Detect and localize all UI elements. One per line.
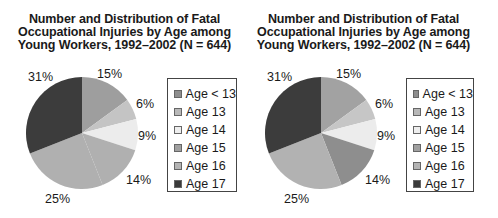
legend-swatch (174, 180, 182, 188)
chart-legend: Age < 13 Age 13 Age 14 Age 15 Age 16 Age… (167, 78, 237, 192)
slice-label-age-15: 14% (126, 174, 151, 187)
legend-swatch (413, 144, 421, 152)
legend-item: Age 14 (413, 121, 473, 139)
legend-item: Age 17 (174, 175, 236, 193)
legend-label: Age 15 (186, 141, 226, 155)
legend-swatch (413, 108, 421, 116)
legend-label: Age 16 (425, 159, 465, 173)
legend-swatch (413, 162, 421, 170)
legend-item: Age 14 (174, 121, 236, 139)
legend-swatch (174, 144, 182, 152)
slice-label-age-14: 9% (377, 130, 395, 143)
chart-panel-left: Number and Distribution of Fatal Occupat… (0, 0, 249, 218)
slice-label-age-15: 14% (365, 174, 390, 187)
slice-label-age-under-13: 15% (97, 68, 122, 81)
slice-label-age-17: 31% (267, 71, 292, 84)
slice-label-age-16: 25% (284, 193, 309, 206)
slice-label-age-13: 6% (375, 98, 393, 111)
slice-label-age-13: 6% (136, 98, 154, 111)
legend-label: Age 14 (186, 123, 226, 137)
legend-swatch (413, 90, 419, 98)
legend-swatch (174, 162, 182, 170)
legend-swatch (174, 108, 182, 116)
legend-label: Age 15 (425, 141, 465, 155)
slice-label-age-16: 25% (45, 193, 70, 206)
legend-item: Age 15 (174, 139, 236, 157)
legend-item: Age < 13 (413, 85, 473, 103)
legend-item: Age 13 (413, 103, 473, 121)
legend-item: Age 16 (413, 157, 473, 175)
chart-panel-right: Number and Distribution of Fatal Occupat… (239, 0, 488, 218)
chart-legend: Age < 13 Age 13 Age 14 Age 15 Age 16 Age… (406, 78, 474, 192)
slice-label-age-14: 9% (138, 130, 156, 143)
legend-label: Age 17 (186, 177, 226, 191)
legend-swatch (174, 90, 182, 98)
legend-item: Age 16 (174, 157, 236, 175)
legend-item: Age < 13 (174, 85, 236, 103)
legend-swatch (413, 126, 421, 134)
legend-item: Age 13 (174, 103, 236, 121)
legend-label: Age < 13 (186, 87, 236, 101)
legend-label: Age 17 (425, 177, 465, 191)
legend-swatch (174, 126, 182, 134)
slice-label-age-under-13: 15% (336, 68, 361, 81)
legend-label: Age 13 (186, 105, 226, 119)
legend-label: Age 16 (186, 159, 226, 173)
legend-label: Age 14 (425, 123, 465, 137)
legend-label: Age < 13 (423, 87, 473, 101)
legend-item: Age 17 (413, 175, 473, 193)
legend-swatch (413, 180, 421, 188)
legend-label: Age 13 (425, 105, 465, 119)
slice-label-age-17: 31% (28, 71, 53, 84)
legend-item: Age 15 (413, 139, 473, 157)
